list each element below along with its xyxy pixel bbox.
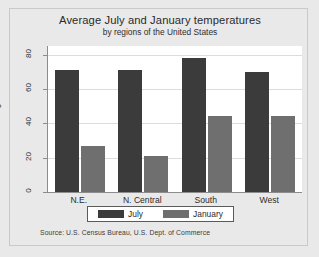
y-axis-tick: [43, 55, 47, 56]
bar-january-3: [271, 116, 295, 192]
x-axis-line: [47, 192, 302, 193]
bar-july-0: [55, 70, 79, 192]
bar-january-0: [81, 146, 105, 192]
chart-subtitle: by regions of the United States: [18, 27, 302, 38]
y-axis-tick-label: 60: [24, 76, 33, 98]
bar-july-1: [118, 70, 142, 192]
y-axis-tick-label: 0: [24, 180, 33, 202]
bar-january-2: [208, 116, 232, 192]
bar-july-2: [182, 58, 206, 192]
bar-january-1: [144, 156, 168, 192]
y-axis-title: Degrees Fahrenheit: [0, 43, 1, 119]
plot-area: [47, 46, 302, 192]
legend-label: January: [193, 209, 223, 219]
legend-item-january[interactable]: January: [163, 209, 223, 219]
page-title: Average July and January temperatures: [18, 14, 302, 27]
legend-swatch-icon: [163, 210, 189, 218]
x-axis-category-label: N. Central: [111, 195, 175, 205]
source-note: Source: U.S. Census Bureau, U.S. Dept. o…: [40, 229, 210, 236]
bar-july-3: [245, 72, 269, 192]
gridline: [48, 55, 302, 56]
y-axis-tick-label: 40: [24, 111, 33, 133]
y-axis-tick: [43, 89, 47, 90]
x-axis-category-label: N.E.: [47, 195, 111, 205]
chart-legend: JulyJanuary: [87, 206, 234, 222]
y-axis-tick-label: 20: [24, 145, 33, 167]
y-axis-tick: [43, 158, 47, 159]
x-axis-category-label: West: [238, 195, 302, 205]
y-axis-tick: [43, 123, 47, 124]
x-axis-category-label: South: [174, 195, 238, 205]
title-block: Average July and January temperatures by…: [18, 14, 302, 38]
legend-item-july[interactable]: July: [98, 209, 143, 219]
legend-swatch-icon: [98, 210, 124, 218]
y-axis-tick-label: 80: [24, 42, 33, 64]
y-axis-tick: [43, 192, 47, 193]
legend-label: July: [128, 209, 143, 219]
chart-figure: Average July and January temperatures by…: [0, 0, 319, 257]
